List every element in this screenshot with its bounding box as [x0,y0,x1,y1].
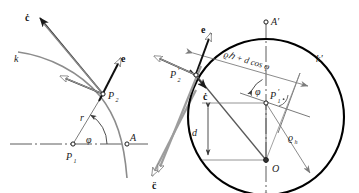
segment-o-upper-right [266,73,300,160]
label-center-o: O [272,163,279,174]
label-p2prime: P 2 ′ [169,67,181,83]
label-rho-h-subscript: h [295,139,298,145]
label-p1-left: P 1 [65,151,77,164]
right-angle-dot [283,98,285,100]
point-marker-aprime [264,20,268,24]
left-figure-group: ċ k e P 2 r φ P 1 A c̈ [10,12,196,191]
point-marker-p2prime [194,73,198,77]
right-figure-group: e P 2 ′ ċ ϱℎ + d cos φ A′ k′ φ P 1 ′ d … [154,16,344,193]
label-point-a: A [129,132,137,143]
label-p1prime-prime: ′ [278,88,280,97]
label-p1prime: P 1 ′ [269,88,281,104]
label-p1prime-subscript: 1 [278,98,281,104]
point-marker-p2 [101,92,105,96]
point-marker-a [125,142,129,146]
label-distance-d: d [192,127,198,138]
label-kprime: k′ [316,53,323,64]
label-e-vector-right: e [201,24,206,35]
trajectory-curve-k [18,52,127,178]
label-angle-phi-right: φ [255,86,261,97]
label-rho-h-letter: ϱ [288,132,293,143]
label-p2prime-prime: ′ [178,67,180,76]
label-aprime: A′ [270,16,280,27]
label-curve-k: k [14,53,19,64]
label-radius-r: r [80,112,84,123]
label-p2-letter: P [107,90,114,101]
label-p1prime-letter: P [269,90,276,101]
angle-arc-phi-left [91,115,108,144]
label-p2prime-subscript: 2 [178,77,181,83]
figure-canvas: ċ k e P 2 r φ P 1 A c̈ [0,0,359,193]
label-rho-h: ϱ h [288,132,298,145]
label-p1-subscript: 1 [74,158,77,164]
geometry-figure: ċ k e P 2 r φ P 1 A c̈ [0,0,359,193]
label-e-vector-left: e [121,53,126,64]
label-p1-letter: P [65,151,72,162]
point-marker-p1 [71,142,75,146]
label-p2-subscript: 2 [116,97,119,103]
label-cdot-left: ċ [25,12,30,23]
velocity-vector-companion-left [44,24,103,94]
unit-vector-e-right [196,33,211,74]
label-angle-phi-left: φ [86,134,92,145]
label-p2-left: P 2 [107,90,119,103]
label-cdot-right: ċ [203,91,208,102]
label-p2prime-letter: P [169,69,176,80]
point-marker-o [264,158,269,163]
point-marker-p1prime [264,101,268,105]
label-cddot-left: c̈ [152,180,157,191]
